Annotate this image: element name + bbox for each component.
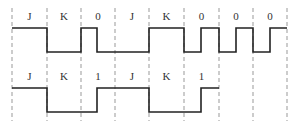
row-1-labels: J K 0 J K 0 0 0 (27, 10, 273, 22)
row-2-label: K (163, 70, 171, 82)
row-1-label: 0 (267, 10, 273, 22)
timing-diagram: J K 0 J K 0 0 0 J K 1 J K 1 (0, 0, 296, 131)
row-2-labels: J K 1 J K 1 (27, 70, 204, 82)
row-2-label: J (130, 70, 135, 82)
row-1-label: J (27, 10, 32, 22)
row-2-label: 1 (199, 70, 205, 82)
row-2-label: J (27, 70, 32, 82)
row-1-label: J (130, 10, 135, 22)
row-1-label: 0 (95, 10, 101, 22)
row-1-label: 0 (233, 10, 239, 22)
row-2-label: 1 (95, 70, 101, 82)
row-1-label: 0 (199, 10, 205, 22)
row-1-label: K (163, 10, 171, 22)
row-1-label: K (60, 10, 68, 22)
row-2-label: K (60, 70, 68, 82)
row-1-waveform (12, 28, 287, 52)
